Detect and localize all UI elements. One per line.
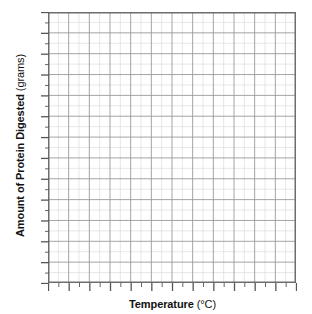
x-axis-ticks	[48, 283, 297, 292]
x-axis-label-unit: (°C)	[197, 298, 216, 310]
x-axis-label-main: Temperature	[129, 298, 194, 310]
x-axis-label-text: Temperature (°C)	[129, 298, 216, 310]
plot-area	[48, 12, 296, 283]
x-axis-label: Temperature (°C)	[48, 294, 297, 312]
y-axis-ticks	[40, 12, 49, 284]
grid-lines	[48, 12, 296, 283]
y-axis-label: Amount of Protein Digested (grams)	[0, 0, 42, 290]
chart-figure: Amount of Protein Digested (grams) Tempe…	[0, 0, 312, 314]
y-axis-label-text: Amount of Protein Digested (grams)	[16, 53, 27, 236]
y-axis-label-main: Amount of Protein Digested	[15, 94, 27, 237]
y-axis-label-unit: (grams)	[15, 53, 27, 90]
